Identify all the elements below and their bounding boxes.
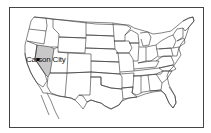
city-label: Carson City [26,55,66,64]
map-frame [9,7,204,128]
us-map [10,8,204,128]
